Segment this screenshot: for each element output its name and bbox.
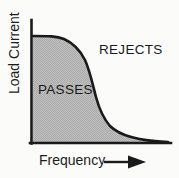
passes-region-label: PASSES <box>38 82 93 97</box>
filter-response-figure: Load Current Frequency PASSES REJECTS <box>0 0 179 178</box>
right-arrow-icon <box>128 156 146 169</box>
x-axis-label: Frequency <box>39 152 105 168</box>
rejects-region-label: REJECTS <box>99 42 163 57</box>
y-axis-label: Load Current <box>6 22 22 94</box>
